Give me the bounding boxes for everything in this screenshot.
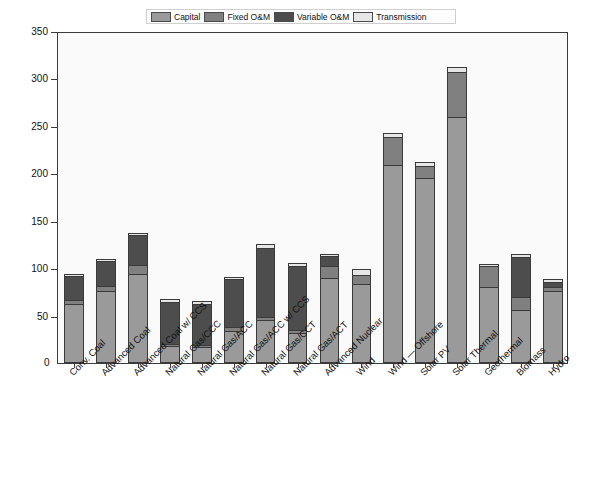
bar-segment-transmission [415,162,435,166]
bar-group [58,33,567,363]
bar-segment-variable-o-m [320,256,340,266]
bar-wind-offshore[interactable] [383,133,403,364]
bar-segment-fixed-o-m [543,287,563,291]
legend-item-transmission: Transmission [353,12,426,22]
legend-label-transmission: Transmission [376,12,426,22]
bar-segment-variable-o-m [128,235,148,265]
bar-segment-capital [447,117,467,363]
bar-segment-fixed-o-m [383,137,403,165]
bar-segment-fixed-o-m [511,297,531,310]
legend-item-variable-om: Variable O&M [274,12,349,22]
bar-segment-transmission [320,254,340,256]
bar-segment-fixed-o-m [479,266,499,287]
bar-segment-fixed-o-m [352,275,372,284]
chart-container: Capital Fixed O&M Variable O&M Transmiss… [0,0,593,479]
bar-segment-transmission [256,244,276,248]
y-tick-label-200: 200 [31,169,48,179]
bar-segment-transmission [511,254,531,257]
legend-label-fixed-om: Fixed O&M [227,12,270,22]
y-tick-label-300: 300 [31,74,48,84]
y-tick-label-100: 100 [31,264,48,274]
legend-swatch-capital [151,12,171,22]
bar-segment-fixed-o-m [64,300,84,304]
legend-swatch-variable-om [274,12,294,22]
bar-segment-transmission [288,263,308,266]
bar-segment-fixed-o-m [256,317,276,321]
y-tick-label-250: 250 [31,122,48,132]
bar-segment-fixed-o-m [96,286,116,291]
bar-segment-transmission [224,277,244,279]
legend-label-capital: Capital [174,12,200,22]
bar-solar-thermal[interactable] [447,67,467,363]
y-tick-label-350: 350 [31,27,48,37]
plot-area [57,32,568,364]
chart-legend: Capital Fixed O&M Variable O&M Transmiss… [146,9,456,24]
bar-segment-variable-o-m [256,248,276,316]
bar-conv-coal[interactable] [64,274,84,363]
y-tick-label-150: 150 [31,217,48,227]
y-tick-label-50: 50 [37,312,48,322]
legend-swatch-fixed-om [204,12,224,22]
bar-segment-fixed-o-m [415,166,435,178]
bar-segment-fixed-o-m [128,265,148,274]
bar-segment-transmission [447,67,467,72]
legend-item-fixed-om: Fixed O&M [204,12,270,22]
bar-segment-transmission [479,264,499,266]
x-axis-labels: Conv. CoalAdvanced CoalAdvanced Coal w/ … [0,364,593,479]
bar-segment-transmission [543,279,563,283]
bar-segment-variable-o-m [224,279,244,327]
bar-segment-fixed-o-m [447,72,467,118]
legend-item-capital: Capital [151,12,200,22]
legend-label-variable-om: Variable O&M [297,12,349,22]
bar-segment-transmission [128,233,148,235]
bar-segment-transmission [160,299,180,302]
bar-segment-transmission [383,133,403,138]
bar-segment-transmission [64,274,84,276]
bar-segment-variable-o-m [64,276,84,301]
bar-segment-variable-o-m [543,282,563,287]
bar-segment-variable-o-m [511,257,531,297]
bar-segment-fixed-o-m [320,266,340,277]
bar-segment-capital [383,165,403,363]
bar-segment-transmission [96,259,116,261]
bar-segment-variable-o-m [96,261,116,287]
legend-swatch-transmission [353,12,373,22]
bar-segment-transmission [352,269,372,275]
